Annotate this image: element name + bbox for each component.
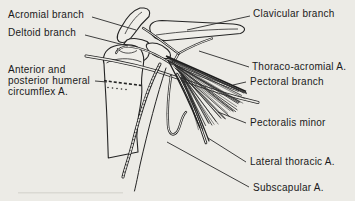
label-circumflex-line1: Anterior and [8, 64, 65, 75]
label-circumflex-line3: circumflex A. [8, 86, 68, 97]
pectoralis-minor-muscle [166, 56, 247, 130]
label-deltoid-branch: Deltoid branch [8, 27, 76, 38]
acromion-bone [117, 8, 150, 42]
label-acromial-branch: Acromial branch [8, 9, 84, 20]
label-pectoralis-minor: Pectoralis minor [250, 117, 326, 128]
leader-pectoral-branch [233, 82, 246, 85]
scan-smudge [18, 192, 123, 194]
label-thoraco-acromial: Thoraco-acromial A. [252, 61, 346, 72]
label-subscapular: Subscapular A. [253, 182, 324, 193]
label-lateral-thoracic: Lateral thoracic A. [250, 156, 335, 167]
muscle-fiber-striations [167, 57, 247, 130]
leader-pectoralis-minor [218, 112, 246, 123]
label-pectoral-branch: Pectoral branch [250, 76, 324, 87]
anatomy-figure: Acromial branch Deltoid branch Anterior … [0, 0, 355, 201]
leader-subscapular [167, 142, 249, 187]
clavicular-branch-vessel [179, 39, 213, 54]
leader-thoraco-acromial [199, 51, 249, 67]
label-clavicular-branch: Clavicular branch [253, 8, 335, 19]
shoulder-arteries-diagram: Acromial branch Deltoid branch Anterior … [0, 0, 355, 201]
leader-lateral-thoracic [208, 138, 246, 162]
label-circumflex-line2: posterior humeral [8, 75, 90, 86]
